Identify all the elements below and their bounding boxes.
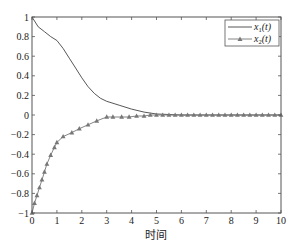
plot-lines <box>30 17 284 215</box>
x-tick-label: 9 <box>254 215 259 226</box>
y-tick-label: −0.6 <box>11 168 29 179</box>
legend: x1(t) x2(t) <box>225 20 279 46</box>
x-tick-label: 0 <box>30 215 35 226</box>
triangle-marker-icon <box>37 185 42 189</box>
x-tick-label: 8 <box>229 215 234 226</box>
legend-label-x2: x2(t) <box>253 33 272 45</box>
x-tick-label: 10 <box>276 215 286 226</box>
y-tick-label: 0.2 <box>17 90 30 101</box>
triangle-marker-icon <box>69 130 74 134</box>
y-tick-label: 0.8 <box>17 31 30 42</box>
triangle-marker-icon <box>48 153 53 157</box>
triangle-marker-icon <box>52 145 57 149</box>
y-tick-label: 1 <box>24 12 29 23</box>
line-chart: 012345678910 10.80.60.40.20−0.2−0.4−0.6−… <box>0 0 294 247</box>
triangle-marker-icon <box>35 193 40 197</box>
series-line-2 <box>32 115 281 213</box>
y-tick-label: 0.6 <box>17 51 30 62</box>
y-tick-label: 0.4 <box>17 70 30 81</box>
x-tick-labels: 012345678910 <box>30 215 287 226</box>
y-tick-label: 0 <box>24 110 29 121</box>
x-tick-label: 6 <box>179 215 184 226</box>
y-tick-label: −1 <box>18 208 29 219</box>
triangle-marker-icon <box>42 169 47 173</box>
x-axis-label: 时间 <box>145 229 167 241</box>
legend-label-x1: x1(t) <box>253 21 272 33</box>
y-tick-label: −0.8 <box>11 188 29 199</box>
x-tick-label: 4 <box>129 215 134 226</box>
x-tick-label: 1 <box>54 215 59 226</box>
y-tick-labels: 10.80.60.40.20−0.2−0.4−0.6−0.8−1 <box>11 12 29 219</box>
y-tick-label: −0.2 <box>11 129 29 140</box>
triangle-marker-icon <box>45 161 50 165</box>
triangle-marker-icon <box>32 201 37 205</box>
triangle-marker-icon <box>40 177 45 181</box>
x-tick-label: 2 <box>79 215 84 226</box>
y-tick-label: −0.4 <box>11 149 29 160</box>
x-tick-label: 5 <box>154 215 159 226</box>
x-tick-label: 7 <box>204 215 209 226</box>
x-tick-label: 3 <box>104 215 109 226</box>
